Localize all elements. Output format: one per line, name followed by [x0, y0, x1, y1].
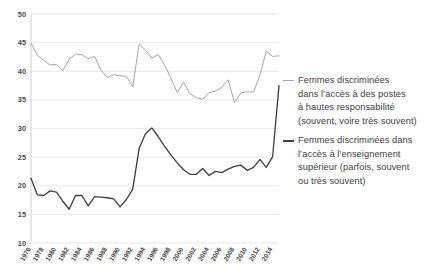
svg-text:2014: 2014	[260, 246, 274, 262]
data-series-lines	[31, 43, 279, 209]
legend-entry-label: Femmes discriminées dans l’accès à des p…	[298, 74, 417, 128]
x-axis-tick-labels: 1976197819801982198419861988199019921994…	[18, 246, 273, 262]
svg-text:1992: 1992	[120, 246, 134, 262]
dark-dash-icon	[283, 140, 294, 142]
svg-text:35: 35	[18, 95, 26, 104]
y-axis-tick-labels: 101520253035404550	[18, 10, 26, 248]
chart-legend: Femmes discriminées dans l’accès à des p…	[283, 74, 430, 204]
svg-text:2004: 2004	[197, 246, 211, 262]
svg-text:2000: 2000	[171, 246, 185, 262]
svg-text:2002: 2002	[184, 246, 198, 262]
svg-text:20: 20	[18, 181, 26, 190]
svg-text:40: 40	[18, 67, 26, 76]
svg-text:30: 30	[18, 124, 26, 133]
svg-text:1988: 1988	[95, 246, 109, 262]
svg-text:45: 45	[18, 38, 26, 47]
svg-text:25: 25	[18, 153, 26, 162]
svg-text:1980: 1980	[44, 246, 58, 262]
svg-text:2006: 2006	[209, 246, 223, 262]
chart-figure: 101520253035404550 197619781980198219841…	[0, 0, 430, 279]
svg-text:1996: 1996	[146, 246, 160, 262]
light-dash-icon	[283, 80, 294, 81]
svg-text:1994: 1994	[133, 246, 147, 262]
line-chart-svg: 101520253035404550 197619781980198219841…	[0, 0, 285, 279]
svg-text:2012: 2012	[247, 246, 261, 262]
svg-text:2010: 2010	[235, 246, 249, 262]
svg-text:1982: 1982	[57, 246, 71, 262]
plot-area: 101520253035404550 197619781980198219841…	[0, 0, 285, 279]
legend-entry-hautes-responsabilites: Femmes discriminées dans l’accès à des p…	[283, 74, 430, 128]
legend-entry-enseignement-superieur: Femmes discriminées dans l’accès à l’ens…	[283, 134, 430, 188]
svg-text:1990: 1990	[107, 246, 121, 262]
svg-text:1978: 1978	[31, 246, 45, 262]
svg-text:50: 50	[18, 10, 26, 19]
svg-text:1986: 1986	[82, 246, 96, 262]
svg-text:15: 15	[18, 210, 26, 219]
svg-text:1976: 1976	[18, 246, 32, 262]
legend-entry-label: Femmes discriminées dans l’accès à l’ens…	[298, 134, 412, 188]
svg-text:1998: 1998	[158, 246, 172, 262]
svg-text:2008: 2008	[222, 246, 236, 262]
svg-text:1984: 1984	[69, 246, 83, 262]
